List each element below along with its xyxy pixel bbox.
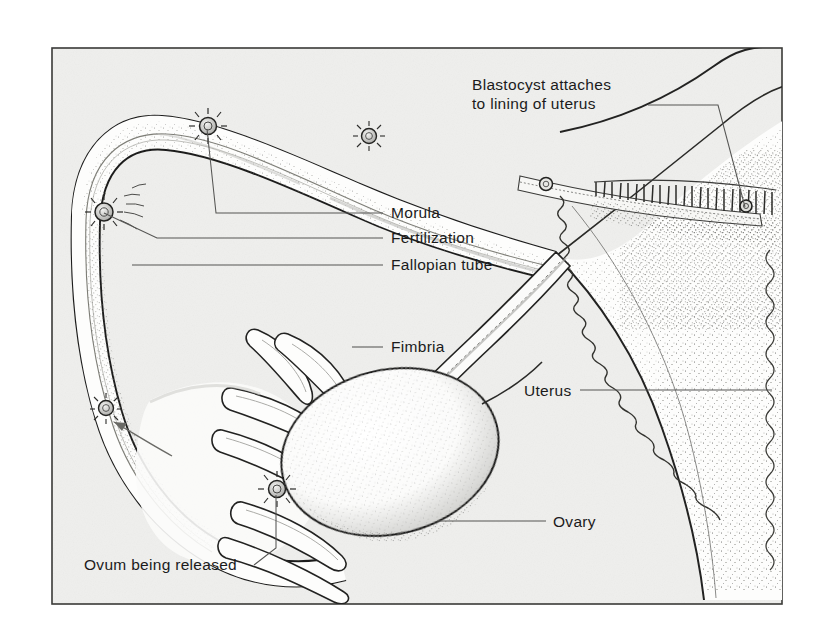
label-fertilization: Fertilization xyxy=(391,229,474,246)
label-fallopian-tube: Fallopian tube xyxy=(391,256,493,273)
label-morula: Morula xyxy=(391,204,440,221)
ovum-blastocyst xyxy=(540,178,553,191)
label-fimbria: Fimbria xyxy=(391,338,445,355)
ovum-travelling xyxy=(90,393,122,424)
ovum-implanting xyxy=(740,200,752,212)
label-ovary: Ovary xyxy=(553,513,596,530)
anatomical-figure: Blastocyst attaches to lining of uterus … xyxy=(0,0,820,643)
label-ovum-being-released: Ovum being released xyxy=(84,556,237,573)
label-uterus: Uterus xyxy=(524,382,571,399)
diagram-canvas: Blastocyst attaches to lining of uterus … xyxy=(0,0,820,643)
ovum-late-morula xyxy=(353,121,385,151)
